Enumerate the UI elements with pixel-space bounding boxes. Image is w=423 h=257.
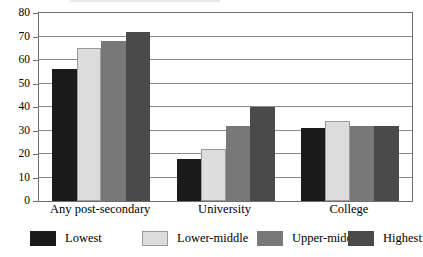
legend-item[interactable]: Upper-middle [257,231,362,246]
legend-item[interactable]: Lowest [30,231,102,246]
bar [77,48,102,201]
bar [177,159,202,201]
y-tick-label-10: 10 [19,172,31,184]
bar-group [301,13,399,201]
legend-label: Lowest [65,232,102,245]
legend-item[interactable]: Lower-middle [142,231,248,246]
clipped-rule-artifact [70,0,220,2]
legend-swatch [30,231,56,246]
x-axis-label: University [198,203,251,216]
grouped-bar-chart: 01020304050607080 Any post-secondaryUniv… [0,0,423,257]
bar [226,126,251,201]
bar [52,69,77,201]
bars-layer [39,13,412,201]
x-axis-category-labels: Any post-secondaryUniversityCollege [38,203,413,221]
bar [126,32,151,201]
legend-swatch [142,231,168,246]
y-tick-label-40: 40 [19,101,31,113]
y-tick-label-0: 0 [24,195,30,207]
legend-swatch [257,231,283,246]
y-tick-label-20: 20 [19,148,31,160]
legend-label: Lower-middle [177,232,248,245]
bar [301,128,326,201]
legend-item[interactable]: Highest [348,231,422,246]
y-tick-label-80: 80 [19,7,31,19]
y-axis: 01020304050607080 [0,12,38,202]
bar [101,41,126,201]
bar [250,107,275,201]
legend-swatch [348,231,374,246]
y-tick-label-30: 30 [19,125,31,137]
chart-legend: LowestLower-middleUpper-middleHighest [0,231,423,251]
bar [325,121,350,201]
legend-label: Highest [383,232,422,245]
x-axis-label: Any post-secondary [50,203,150,216]
bar [374,126,399,201]
y-tick-label-70: 70 [19,31,31,43]
x-axis-label: College [329,203,368,216]
bar [201,149,226,201]
bar [350,126,375,201]
bar-group [52,13,150,201]
y-tick-label-50: 50 [19,78,31,90]
y-tick-label-60: 60 [19,54,31,66]
bar-group [177,13,275,201]
